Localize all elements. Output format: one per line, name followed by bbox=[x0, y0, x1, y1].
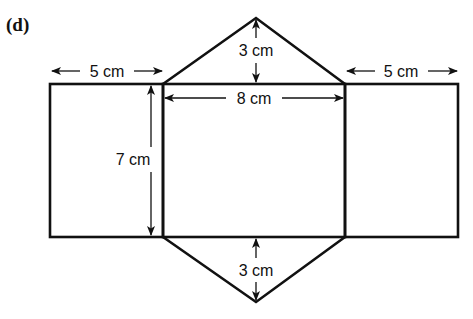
height-label: 7 cm bbox=[116, 151, 151, 168]
right-width-label: 5 cm bbox=[384, 63, 419, 80]
top-triangle-height-label: 3 cm bbox=[239, 42, 274, 59]
middle-width-label: 8 cm bbox=[237, 90, 272, 107]
triangular-prism-net: (d) 5 cm 5 cm 8 cm 7 cm 3 cm 3 cm bbox=[0, 0, 473, 319]
right-rectangle bbox=[345, 84, 458, 237]
left-width-label: 5 cm bbox=[90, 63, 125, 80]
part-label: (d) bbox=[6, 14, 29, 36]
bottom-triangle-height-label: 3 cm bbox=[239, 262, 274, 279]
